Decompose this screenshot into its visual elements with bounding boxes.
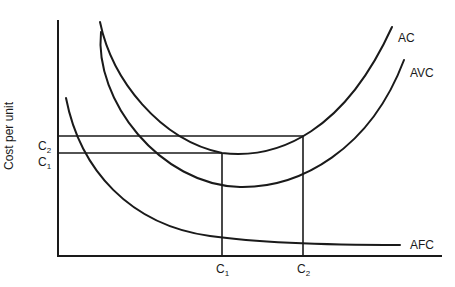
afc-label: AFC <box>410 238 434 252</box>
afc-curve <box>66 98 400 245</box>
x-tick-c1: C1 <box>216 262 230 278</box>
x-tick-c2: C2 <box>297 262 311 278</box>
y-tick-c1: C1 <box>38 155 52 171</box>
y-tick-c2: C2 <box>38 139 52 155</box>
avc-label: AVC <box>410 66 434 80</box>
cost-curves-diagram: Cost per unit AC AVC AFC C2 C1 C1 C2 <box>0 0 455 287</box>
y-axis-label: Cost per unit <box>2 101 16 170</box>
ac-label: AC <box>398 31 415 45</box>
ac-curve <box>100 22 392 154</box>
